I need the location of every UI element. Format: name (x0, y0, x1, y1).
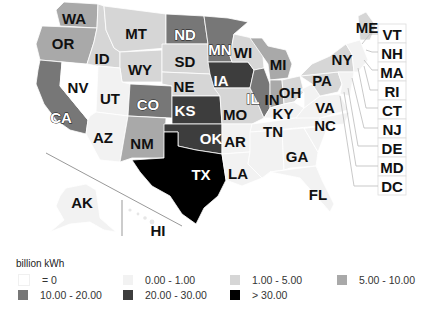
legend-swatch (18, 290, 28, 300)
label-nh: NH (381, 45, 403, 62)
label-md: MD (380, 159, 403, 176)
legend-swatch (18, 274, 30, 286)
label-tx: TX (191, 166, 210, 183)
legend-item-zero: = 0 (18, 273, 57, 287)
leader-nh (366, 50, 378, 52)
label-ks: KS (175, 102, 196, 119)
label-ut: UT (100, 90, 120, 107)
legend-title: billion kWh (16, 258, 64, 269)
label-fl: FL (309, 186, 327, 203)
legend-label: > 30.00 (252, 289, 287, 301)
label-de: DE (382, 140, 403, 157)
label-ne: NE (174, 78, 195, 95)
legend-swatch (337, 275, 347, 285)
label-oh: OH (279, 84, 302, 101)
legend-item-0-1: 0.00 - 1.00 (123, 273, 195, 287)
label-ct: CT (382, 102, 402, 119)
leader-de (348, 88, 378, 146)
label-ar: AR (224, 133, 246, 150)
label-nm: NM (130, 135, 153, 152)
label-ny: NY (332, 51, 353, 68)
label-mn: MN (208, 41, 231, 58)
label-wy: WY (128, 61, 152, 78)
label-nc: NC (314, 117, 336, 134)
legend-item-5-10: 5.00 - 10.00 (337, 273, 415, 287)
label-ky: KY (273, 105, 294, 122)
label-hi: HI (151, 222, 166, 239)
label-tn: TN (263, 123, 283, 140)
label-ma: MA (380, 64, 403, 81)
label-va: VA (315, 99, 335, 116)
map-legend: billion kWh = 0 0.00 - 1.00 1.00 - 5.00 … (0, 250, 424, 311)
legend-label: 5.00 - 10.00 (359, 274, 415, 286)
label-wa: WA (62, 10, 86, 27)
legend-label: 1.00 - 5.00 (252, 274, 302, 286)
label-or: OR (52, 35, 75, 52)
label-vt: VT (382, 26, 401, 43)
label-mi: MI (270, 56, 287, 73)
label-pa: PA (312, 72, 332, 89)
label-wi: WI (234, 44, 252, 61)
legend-swatch (230, 275, 240, 285)
legend-label: = 0 (42, 274, 57, 286)
legend-swatch (230, 290, 240, 300)
label-id: ID (95, 50, 110, 67)
label-dc: DC (381, 178, 403, 195)
label-co: CO (137, 96, 160, 113)
label-nd: ND (174, 26, 196, 43)
legend-swatch (123, 275, 133, 285)
label-ok: OK (200, 130, 223, 147)
legend-item-gt-30: > 30.00 (230, 288, 287, 302)
legend-item-1-5: 1.00 - 5.00 (230, 273, 302, 287)
label-mt: MT (125, 25, 147, 42)
label-mo: MO (223, 106, 247, 123)
label-la: LA (228, 165, 248, 182)
label-ia: IA (214, 72, 229, 89)
label-az: AZ (93, 129, 113, 146)
legend-swatch (123, 290, 133, 300)
label-ri: RI (385, 83, 400, 100)
label-nj: NJ (382, 121, 401, 138)
label-me: ME (356, 19, 379, 36)
label-sd: SD (175, 53, 196, 70)
label-ca: CA (50, 109, 72, 126)
label-ga: GA (286, 148, 309, 165)
label-ak: AK (71, 194, 93, 211)
label-il: IL (246, 90, 259, 107)
choropleth-map: VT NH MA RI CT NJ DE MD DC WA OR CA NV I… (0, 0, 424, 250)
legend-label: 0.00 - 1.00 (145, 274, 195, 286)
legend-item-20-30: 20.00 - 30.00 (123, 288, 207, 302)
label-nv: NV (68, 79, 89, 96)
legend-label: 10.00 - 20.00 (40, 289, 102, 301)
leader-ct (358, 68, 378, 108)
legend-label: 20.00 - 30.00 (145, 289, 207, 301)
legend-item-10-20: 10.00 - 20.00 (18, 288, 102, 302)
